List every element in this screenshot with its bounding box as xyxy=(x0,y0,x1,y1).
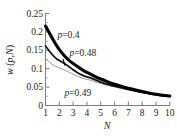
line-chart: 0 0.05 0.1 0.15 0.2 0.25 1 2 3 4 5 6 7 8… xyxy=(0,0,177,136)
annotation-p-049-value: 0.49 xyxy=(75,88,92,98)
x-axis-ticks xyxy=(46,102,170,106)
y-tick-label: 0.1 xyxy=(31,64,43,74)
x-tick-label: 4 xyxy=(85,108,90,118)
x-tick-label: 8 xyxy=(140,108,145,118)
x-tick-label: 10 xyxy=(165,108,175,118)
annotation-p-049: p=0.49 xyxy=(64,88,92,98)
x-tick-label: 6 xyxy=(112,108,117,118)
annotation-p-048: p=0.48 xyxy=(69,48,97,58)
x-tick-label: 3 xyxy=(71,108,76,118)
x-tick-label: 5 xyxy=(98,108,103,118)
x-axis-title: N xyxy=(103,120,112,131)
x-tick-label: 9 xyxy=(154,108,159,118)
y-tick-label: 0.05 xyxy=(26,82,43,92)
svg-text:w (p,N): w (p,N) xyxy=(4,45,16,75)
annotation-p-04-value: 0.4 xyxy=(68,30,80,40)
y-tick-label: 0.15 xyxy=(26,45,43,55)
annotation-p-048-value: 0.48 xyxy=(80,48,97,58)
y-axis-title: w (p,N) xyxy=(4,45,16,75)
x-tick-label: 2 xyxy=(57,108,62,118)
y-axis-tick-labels: 0 0.05 0.1 0.15 0.2 0.25 xyxy=(26,9,43,111)
y-tick-label: 0.25 xyxy=(26,9,43,19)
y-axis-title-close: ) xyxy=(4,45,16,48)
x-tick-label: 7 xyxy=(126,108,131,118)
chart-figure: 0 0.05 0.1 0.15 0.2 0.25 1 2 3 4 5 6 7 8… xyxy=(0,0,177,136)
y-tick-label: 0.2 xyxy=(31,27,43,37)
x-tick-label: 1 xyxy=(43,108,48,118)
x-axis-tick-labels: 1 2 3 4 5 6 7 8 9 10 xyxy=(43,108,175,118)
annotation-p-04: p=0.4 xyxy=(57,30,80,40)
